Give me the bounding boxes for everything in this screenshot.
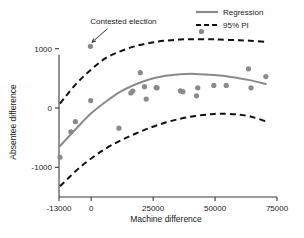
regression-line	[60, 74, 266, 146]
data-point	[57, 155, 62, 160]
data-point	[144, 97, 149, 102]
data-point	[88, 44, 93, 49]
x-tick-label: 50000	[204, 204, 227, 213]
y-tick-label: -1000	[32, 163, 53, 172]
x-axis-title: Machine difference	[130, 214, 202, 224]
x-tick-label: 0	[89, 204, 94, 213]
y-tick-label: 1000	[34, 45, 52, 54]
data-point	[116, 126, 121, 131]
y-axis-title: Absentee difference	[8, 84, 18, 160]
data-point	[155, 85, 160, 90]
annotation-arrow-line	[92, 29, 107, 43]
data-point	[88, 98, 93, 103]
x-axis-ticks: -130000250005000075000	[47, 197, 289, 213]
data-point	[130, 89, 135, 94]
data-point	[195, 85, 200, 90]
data-point	[142, 84, 147, 89]
y-axis-ticks: -100001000	[32, 45, 59, 173]
y-tick-label: 0	[48, 104, 53, 113]
data-point	[68, 129, 73, 134]
data-points	[57, 29, 268, 160]
data-point	[73, 119, 78, 124]
pi-lower-curve	[60, 114, 266, 187]
data-point	[199, 29, 204, 34]
scatter-plot: -100001000 -130000250005000075000 Machin…	[0, 0, 304, 238]
data-point	[263, 74, 268, 79]
regression-curve	[60, 74, 266, 146]
data-point	[194, 93, 199, 98]
data-point	[138, 70, 143, 75]
x-tick-label: -13000	[47, 204, 72, 213]
annotation-label: Contested election	[90, 17, 156, 26]
x-tick-label: 75000	[266, 204, 289, 213]
chart-figure: -100001000 -130000250005000075000 Machin…	[0, 0, 304, 238]
data-point	[211, 83, 216, 88]
data-point	[224, 83, 229, 88]
data-point	[248, 85, 253, 90]
chart-legend: Regression95% PI	[196, 8, 263, 30]
data-point	[180, 89, 185, 94]
legend-label-2: 95% PI	[223, 21, 249, 30]
annotation-contested-election: Contested election	[90, 17, 156, 43]
data-point	[246, 66, 251, 71]
x-tick-label: 25000	[142, 204, 165, 213]
legend-label-1: Regression	[223, 8, 263, 17]
